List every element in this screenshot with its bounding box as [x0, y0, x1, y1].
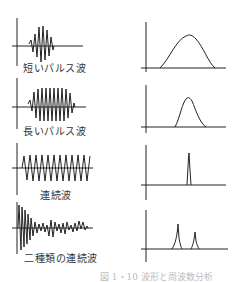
broad-spectrum-peak	[160, 35, 215, 68]
spectral-line-1	[172, 224, 182, 249]
long-pulse-trace	[28, 88, 75, 121]
spectrum-long-pulse	[141, 85, 226, 133]
spectrum-two-continuous	[141, 210, 228, 262]
single-spectral-line	[187, 153, 191, 185]
waveform-long-pulse	[12, 78, 86, 129]
spectrum-continuous	[141, 145, 226, 200]
figure-caption: 図 1・10 波形と周波数分析	[100, 273, 213, 282]
label-long-pulse: 長いパルス波	[23, 127, 86, 137]
spectral-line-2	[191, 232, 199, 249]
label-two-continuous: 二種類の連続波	[24, 254, 98, 264]
label-short-pulse: 短いパルス波	[23, 64, 86, 74]
narrow-spectrum-peak	[175, 98, 206, 127]
waveform-two-continuous	[12, 202, 93, 254]
waveform-short-pulse	[12, 18, 83, 66]
label-continuous: 連続波	[40, 191, 72, 201]
spectrum-short-pulse	[141, 22, 226, 72]
waveform-continuous	[12, 143, 93, 195]
short-pulse-trace	[29, 26, 54, 62]
